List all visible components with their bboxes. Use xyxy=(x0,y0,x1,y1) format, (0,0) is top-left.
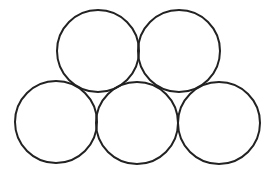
circle-bottom-left xyxy=(15,81,97,163)
diagram-canvas xyxy=(0,0,268,175)
circle-bottom-right xyxy=(178,82,260,164)
circle-top-right xyxy=(138,10,220,92)
circle-stack-diagram xyxy=(0,0,268,175)
circle-top-left xyxy=(57,10,139,92)
circle-bottom-middle xyxy=(96,82,178,164)
